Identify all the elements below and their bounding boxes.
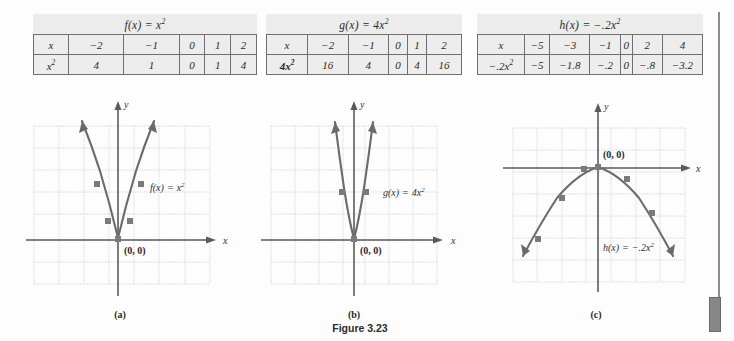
- panel-caption-b: (b): [334, 309, 374, 320]
- table-header-g: g(x) = 4x2: [267, 14, 462, 35]
- table-header-row: h(x) = −.2x2: [478, 14, 703, 35]
- cell-y-1: 1: [124, 55, 179, 75]
- cell-x-1: −3: [550, 35, 590, 55]
- cell-x-3: 0: [620, 35, 632, 55]
- grid-c: [513, 128, 685, 282]
- cell-y-1: 4: [348, 55, 389, 75]
- grid-a: [34, 126, 210, 284]
- cell-y-4: 4: [231, 55, 257, 75]
- cell-x-4: 2: [231, 35, 257, 55]
- cell-y-2: 0: [179, 55, 205, 75]
- figure-caption: Figure 3.23: [320, 322, 400, 334]
- cell-y-3: 0: [620, 55, 632, 75]
- cell-y-0: −5: [525, 55, 550, 75]
- cell-x-1: −1: [348, 35, 389, 55]
- header-exp: 2: [616, 17, 620, 26]
- cell-y-0: 16: [308, 55, 349, 75]
- cell-x-2: 0: [389, 35, 408, 55]
- x-axis-label-c: x: [695, 163, 701, 174]
- table-row: x2 4 1 0 1 4: [34, 55, 257, 75]
- cell-y-1: −1.8: [550, 55, 590, 75]
- figure-page: f(x) = x2 x −2 −1 0 1 2 x2 4 1 0 1 4 g(x…: [0, 0, 734, 341]
- axes-c: [503, 103, 691, 292]
- cell-x-3: 1: [408, 35, 427, 55]
- x-axis-label-b: x: [450, 235, 456, 246]
- curve-label-b: g(x)=4x2: [383, 186, 425, 199]
- table-row: x −2 −1 0 1 2: [267, 35, 462, 55]
- header-eq: =: [362, 18, 370, 30]
- margin-tab: [709, 297, 721, 332]
- y-axis-label-a: y: [123, 99, 129, 110]
- cell-y-2: 0: [389, 55, 408, 75]
- table-header-row: g(x) = 4x2: [267, 14, 462, 35]
- table-row: 4x2 16 4 0 4 16: [267, 55, 462, 75]
- table-g: g(x) = 4x2 x −2 −1 0 1 2 4x2 16 4 0 4 16: [266, 14, 462, 75]
- cell-x-0: −5: [525, 35, 550, 55]
- y-axis-label-b: y: [359, 99, 365, 110]
- graph-b: x y (0, 0) g(x)=4x2: [255, 96, 470, 306]
- cell-x-2: −1: [590, 35, 620, 55]
- x-axis-label-a: x: [222, 235, 228, 246]
- table-row: −.2x2 −5 −1.8 −.2 0 −.8 −3.2: [478, 55, 703, 75]
- header-exp: 2: [385, 17, 389, 26]
- origin-label-a: (0, 0): [124, 245, 146, 257]
- header-eq: =: [145, 18, 153, 30]
- row-label-y: −.2x2: [478, 55, 525, 75]
- graph-a: x y (0, 0) f(x)=x2: [20, 96, 240, 306]
- panel-caption-c: (c): [576, 309, 616, 320]
- cell-x-0: −2: [69, 35, 124, 55]
- origin-label-c: (0, 0): [603, 149, 625, 161]
- header-fn: g(x): [339, 18, 359, 30]
- cell-y-4: −.8: [632, 55, 662, 75]
- table-row: x −2 −1 0 1 2: [34, 35, 257, 55]
- row-label-x: x: [34, 35, 69, 55]
- header-eq: =: [582, 18, 590, 30]
- axes-b: [261, 101, 443, 296]
- cell-x-4: 2: [427, 35, 462, 55]
- axes-a: [26, 101, 216, 296]
- panel-caption-a: (a): [100, 309, 140, 320]
- cell-x-0: −2: [308, 35, 349, 55]
- curve-arrow-left: [331, 122, 340, 134]
- table-h: h(x) = −.2x2 x −5 −3 −1 0 2 4 −.2x2 −5 −…: [477, 14, 703, 75]
- table-row: x −5 −3 −1 0 2 4: [478, 35, 703, 55]
- cell-x-3: 1: [205, 35, 231, 55]
- cell-x-2: 0: [179, 35, 205, 55]
- header-fn: f(x): [124, 18, 141, 30]
- curve-arrow-right: [368, 122, 377, 134]
- row-label-x: x: [478, 35, 525, 55]
- cell-y-4: 16: [427, 55, 462, 75]
- cell-y-2: −.2: [590, 55, 620, 75]
- header-expr: −.2x: [594, 18, 617, 30]
- table-header-row: f(x) = x2: [34, 14, 257, 35]
- table-header-h: h(x) = −.2x2: [478, 14, 703, 35]
- cell-x-5: 4: [662, 35, 702, 55]
- header-exp: 2: [161, 17, 165, 26]
- curve-label-a: f(x)=x2: [150, 181, 185, 194]
- y-axis-label-c: y: [603, 101, 609, 112]
- cell-y-0: 4: [69, 55, 124, 75]
- margin-rule: [718, 12, 720, 330]
- origin-label-b: (0, 0): [360, 245, 382, 257]
- cell-x-1: −1: [124, 35, 179, 55]
- cell-y-3: 1: [205, 55, 231, 75]
- header-expr: 4x: [373, 18, 384, 30]
- row-label-x: x: [267, 35, 308, 55]
- cell-y-5: −3.2: [662, 55, 702, 75]
- row-label-y: x2: [34, 55, 69, 75]
- header-fn: h(x): [560, 18, 580, 30]
- curve-label-c: h(x)=−.2x2: [603, 241, 655, 254]
- table-f: f(x) = x2 x −2 −1 0 1 2 x2 4 1 0 1 4: [33, 14, 257, 75]
- cell-y-3: 4: [408, 55, 427, 75]
- graph-c: x y (0, 0) h(x)=−.2x2: [485, 96, 710, 306]
- row-label-y: 4x2: [267, 55, 308, 75]
- table-header-f: f(x) = x2: [34, 14, 257, 35]
- cell-x-4: 2: [632, 35, 662, 55]
